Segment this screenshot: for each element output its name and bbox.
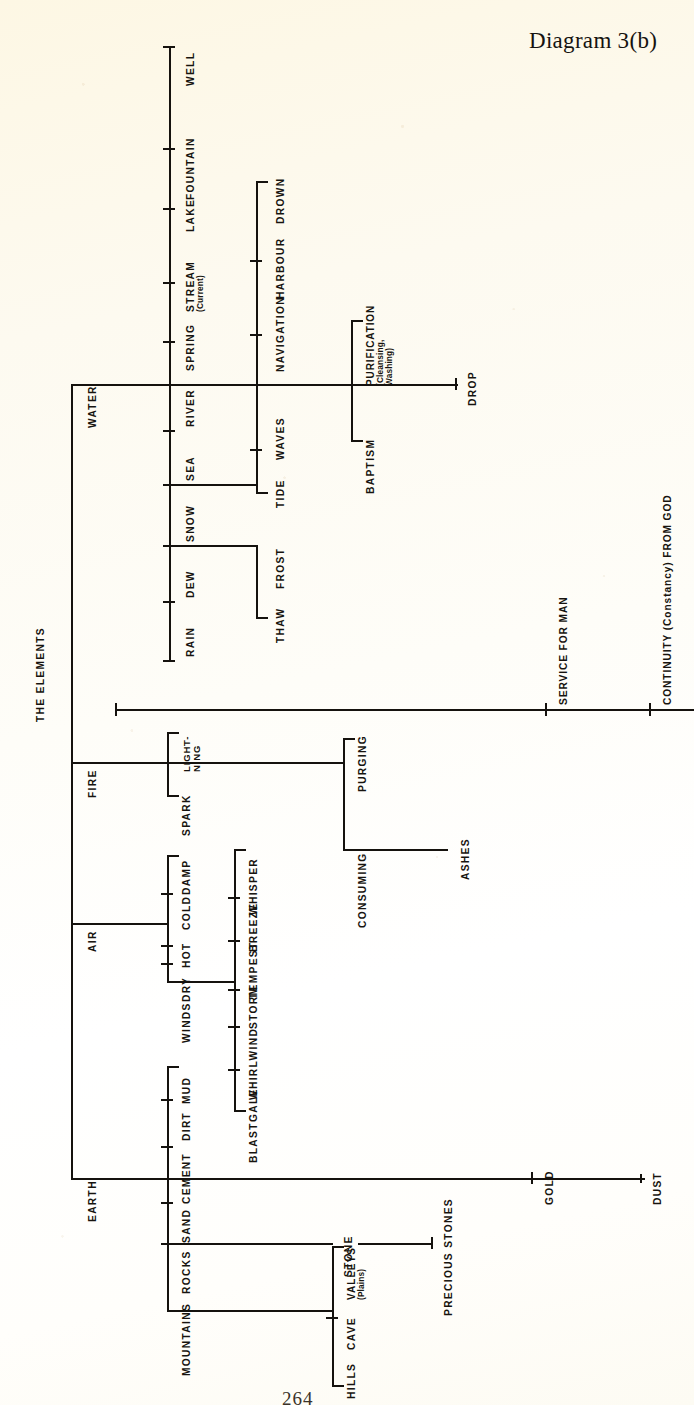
earth-label: EARTH: [88, 1180, 98, 1222]
cement-label: CEMENT: [182, 1153, 192, 1204]
precious-stones-tick: [431, 1237, 433, 1249]
storm-tick: [228, 989, 240, 991]
sand-label: SAND: [182, 1209, 192, 1243]
dirt-label: DIRT: [182, 1112, 192, 1141]
stream-note: (Current): [196, 261, 204, 312]
hot-label: HOT: [182, 942, 192, 968]
consuming-label: CONSUMING: [358, 852, 368, 928]
mud-tick: [167, 1066, 179, 1068]
page-title: Diagram 3(b): [529, 28, 657, 54]
spark-label: SPARK: [182, 794, 192, 836]
breeze-tick: [228, 897, 240, 899]
drown-tick: [256, 181, 268, 183]
tide-label: TIDE: [276, 479, 286, 508]
blast-tick: [234, 1110, 246, 1112]
fire-branch-line: [83, 762, 345, 764]
drown-label: DROWN: [276, 178, 286, 224]
river-tick: [163, 430, 175, 432]
baptism-label: BAPTISM: [366, 439, 376, 494]
rocks-tick: [161, 1243, 173, 1245]
navigation-label: NAVIGATION: [276, 296, 286, 372]
winds-connector: [179, 981, 236, 983]
purification-baptism-bracket: [351, 320, 353, 442]
river-label: RIVER: [186, 389, 196, 427]
dry-tick: [161, 963, 173, 965]
snow-children-line: [256, 545, 258, 618]
baptism-tick: [351, 440, 363, 442]
harbour-label: HARBOUR: [276, 237, 286, 299]
harbour-tick: [250, 260, 262, 262]
gale-label: GALE: [249, 1088, 259, 1122]
hills-tick: [332, 1385, 344, 1387]
whirlwind-tick: [228, 1026, 240, 1028]
ashes-connector: [355, 849, 448, 851]
mountains-children-line: [332, 1246, 334, 1386]
sea-label: SEA: [186, 456, 196, 481]
mountains-tick: [167, 1310, 179, 1312]
earth-tier1-line: [167, 1066, 169, 1311]
cold-label: COLD: [182, 896, 192, 930]
snow-label: SNOW: [186, 505, 196, 542]
fire-label: FIRE: [88, 769, 98, 798]
whisper-tick: [234, 849, 246, 851]
rocks-label: ROCKS: [182, 1250, 192, 1294]
winds-label: WINDS: [182, 1002, 192, 1043]
lake-label: LAKE: [186, 199, 196, 232]
air-branch-line: [83, 923, 169, 925]
spring-label: SPRING: [186, 324, 196, 371]
rocks-connector: [173, 1243, 333, 1245]
dew-tick: [163, 601, 175, 603]
well-label: WELL: [186, 52, 196, 86]
storm-label: STORM: [249, 986, 259, 1029]
winds-tick: [167, 981, 179, 983]
stream-label: STREAM(Current): [186, 261, 205, 312]
service-tick: [545, 703, 547, 716]
precious-stones-label: PRECIOUS STONES: [444, 1198, 454, 1316]
hot-tick: [161, 945, 173, 947]
drop-label: DROP: [468, 371, 478, 406]
water-branch-line: [83, 384, 458, 386]
gold-label: GOLD: [545, 1170, 555, 1205]
page-number: 264: [282, 1388, 314, 1405]
frost-label: FROST: [276, 548, 286, 589]
spark-tick: [167, 795, 179, 797]
thaw-label: THAW: [276, 608, 286, 643]
continuity-tick: [649, 703, 651, 716]
fountain-label: FOUNTAIN: [186, 137, 196, 200]
tempest-tick: [228, 940, 240, 942]
mountains-label: MOUNTAINS: [182, 1303, 192, 1376]
stream-tick: [163, 282, 175, 284]
valleys-label: VALLEYS(Plains): [347, 1247, 366, 1300]
purification-label: PURIFICATION(Cleansing,Washing): [366, 305, 393, 386]
spine-start-tick: [115, 703, 117, 716]
purging-tick: [343, 738, 355, 740]
navigation-tick: [250, 334, 262, 336]
fire-spark-lightning-bracket: [167, 732, 169, 797]
water-label: WATER: [88, 385, 98, 428]
dust-label: DUST: [653, 1172, 663, 1205]
drop-tick: [455, 378, 457, 390]
cold-tick: [161, 893, 173, 895]
blast-label: BLAST: [249, 1122, 259, 1163]
lake-tick: [163, 208, 175, 210]
sea-tick: [163, 484, 175, 486]
cave-label: CAVE: [347, 1317, 357, 1350]
diagram-page: Diagram 3(b) THE ELEMENTS SERVICE FOR MA…: [0, 0, 694, 1405]
rain-tick: [163, 660, 175, 662]
elements-trunk-line: [71, 385, 73, 1180]
air-tier2-line: [234, 849, 236, 1111]
gold-tick: [531, 1172, 533, 1184]
damp-tick: [167, 855, 179, 857]
snow-tick: [163, 545, 175, 547]
cement-tick: [161, 1146, 173, 1148]
cave-tick: [326, 1317, 338, 1319]
water-tier2-line: [256, 181, 258, 493]
service-for-man-label: SERVICE FOR MAN: [559, 597, 569, 705]
air-label: AIR: [88, 930, 98, 952]
hills-label: HILLS: [347, 1363, 357, 1399]
tide-tick: [256, 492, 268, 494]
fire-purging-consuming-bracket: [343, 738, 345, 851]
mountains-connector: [179, 1310, 334, 1312]
main-spine-line: [116, 709, 694, 711]
damp-label: DAMP: [182, 860, 192, 895]
